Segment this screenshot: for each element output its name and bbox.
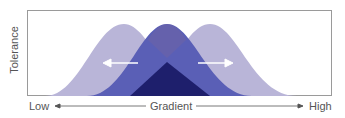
y-axis-label: Tolerance [8, 20, 20, 80]
x-axis-labels: Low Gradient High [0, 100, 345, 116]
x-axis-low-label: Low [29, 100, 49, 112]
x-axis-high-label: High [309, 100, 332, 112]
x-axis-center-label: Gradient [150, 100, 192, 112]
